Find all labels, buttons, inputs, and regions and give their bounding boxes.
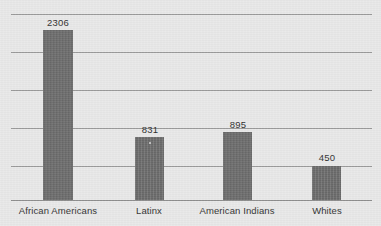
scan-artifact-speck xyxy=(149,142,151,144)
bar-latinx xyxy=(135,137,164,200)
value-label-american-indians: 895 xyxy=(208,119,268,130)
bar-african-americans xyxy=(43,30,73,200)
category-label-latinx: Latinx xyxy=(119,205,179,216)
bar-chart: 2306 831 895 450 African Americans Latin… xyxy=(0,0,381,226)
category-label-whites: Whites xyxy=(297,205,357,216)
value-label-whites: 450 xyxy=(297,152,357,163)
bar-whites xyxy=(312,166,341,200)
gridline-2500 xyxy=(11,14,372,15)
bar-american-indians xyxy=(223,132,252,200)
x-axis-baseline xyxy=(11,200,372,201)
category-label-african-americans: African Americans xyxy=(13,205,103,216)
value-label-african-americans: 2306 xyxy=(28,17,88,28)
category-label-american-indians: American Indians xyxy=(192,205,282,216)
value-label-latinx: 831 xyxy=(120,124,180,135)
